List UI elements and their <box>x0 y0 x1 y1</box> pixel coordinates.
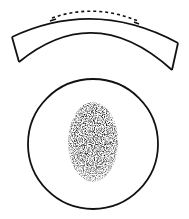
lens-top-view <box>28 79 158 209</box>
lens-outer-surface <box>12 19 178 43</box>
lens-diagram <box>0 0 189 219</box>
lens-cross-section <box>12 11 178 70</box>
lens-left-edge <box>12 37 19 62</box>
lens-right-edge <box>172 43 178 70</box>
stippled-oval-region <box>68 102 118 182</box>
lens-inner-surface <box>19 33 172 70</box>
